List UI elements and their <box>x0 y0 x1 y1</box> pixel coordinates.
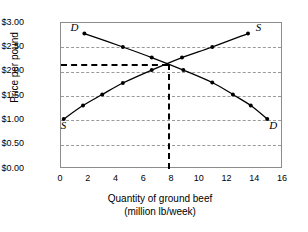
x-tick-label: 14 <box>244 174 264 183</box>
x-axis-title: Quantity of ground beef (million lb/week… <box>40 192 280 218</box>
equilibrium-price-line <box>61 64 168 66</box>
x-tick-label: 8 <box>161 174 181 183</box>
x-tick-label: 16 <box>272 174 292 183</box>
curve-label-s: S <box>256 22 262 33</box>
demand-curve <box>82 32 269 121</box>
y-tick-label: $0.50 <box>0 139 24 148</box>
data-point-marker <box>181 68 185 72</box>
curve-label-d: D <box>71 22 79 33</box>
x-axis-title-line1: Quantity of ground beef <box>40 192 280 205</box>
data-point-marker <box>150 68 154 72</box>
equilibrium-quantity-line <box>168 64 170 169</box>
curve-label-s: S <box>61 120 67 131</box>
x-tick-label: 0 <box>50 174 70 183</box>
y-tick-label: $3.00 <box>0 18 24 27</box>
data-point-marker <box>180 56 184 60</box>
data-point-marker <box>121 81 125 85</box>
data-point-marker <box>150 56 154 60</box>
y-tick-label: $2.50 <box>0 42 24 51</box>
data-point-marker <box>100 93 104 97</box>
data-point-marker <box>121 45 125 49</box>
plot-area <box>60 22 282 168</box>
x-tick-label: 6 <box>133 174 153 183</box>
data-point-marker <box>210 45 214 49</box>
y-tick-label: $1.00 <box>0 115 24 124</box>
x-tick-label: 2 <box>78 174 98 183</box>
supply-demand-chart: Price per pound $0.00$0.50$1.00$1.50$2.0… <box>0 0 308 232</box>
curve-layer <box>61 23 281 167</box>
curve-label-d: D <box>269 120 277 131</box>
supply-line <box>64 34 248 119</box>
y-tick-label: $0.00 <box>0 164 24 173</box>
x-tick-label: 12 <box>217 174 237 183</box>
x-tick-label: 4 <box>106 174 126 183</box>
data-point-marker <box>249 104 253 108</box>
data-point-marker <box>246 32 250 36</box>
x-axis-title-line2: (million lb/week) <box>40 205 280 218</box>
data-point-marker <box>81 104 85 108</box>
y-tick-label: $1.50 <box>0 91 24 100</box>
x-tick-label: 10 <box>189 174 209 183</box>
data-point-marker <box>210 81 214 85</box>
supply-curve <box>62 32 250 121</box>
data-point-marker <box>82 32 86 36</box>
data-point-marker <box>231 93 235 97</box>
demand-line <box>84 34 267 119</box>
y-tick-label: $2.00 <box>0 66 24 75</box>
